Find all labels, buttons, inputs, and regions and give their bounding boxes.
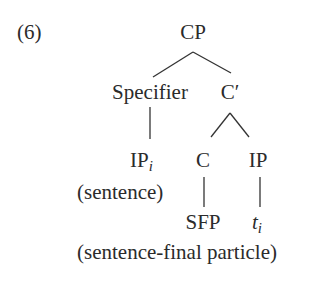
node-sfp: SFP — [185, 210, 220, 234]
edge-cbar-ip — [230, 113, 249, 137]
node-ip-i-subscript: i — [149, 158, 153, 174]
node-specifier: Specifier — [112, 80, 188, 104]
node-ip-i-label: IP — [130, 148, 149, 172]
node-ip-i: IPi — [130, 148, 153, 174]
edge-cp-specifier — [153, 52, 193, 77]
gloss-sentence-final-particle: (sentence-final particle) — [77, 240, 277, 264]
cp-tree-diagram: (6) CP Specifier C′ IPi C IP (sentence) … — [0, 0, 336, 287]
edge-cbar-c — [211, 113, 230, 137]
node-trace-subscript: i — [258, 220, 262, 236]
node-trace: ti — [252, 210, 262, 236]
gloss-sentence: (sentence) — [77, 180, 163, 204]
node-c: C — [196, 148, 210, 172]
node-ip: IP — [249, 148, 268, 172]
example-number: (6) — [17, 20, 42, 44]
node-c-bar: C′ — [221, 80, 240, 104]
node-cp: CP — [180, 20, 206, 44]
edge-cp-cbar — [193, 52, 231, 73]
